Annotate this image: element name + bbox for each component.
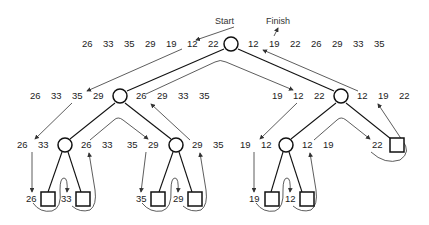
edge bbox=[125, 103, 171, 139]
number-l1-left-in: 35 bbox=[72, 90, 83, 101]
number-l1-left-in: 33 bbox=[51, 90, 62, 101]
node-root bbox=[224, 37, 238, 51]
number-l2d-in: 22 bbox=[372, 139, 383, 150]
node-l1-right bbox=[334, 89, 348, 103]
edge bbox=[127, 49, 224, 91]
number-leaves: 35 bbox=[136, 193, 147, 204]
number-l1-right-in: 12 bbox=[293, 90, 304, 101]
finish-label: Finish bbox=[266, 16, 290, 26]
number-l2b-out: 29 bbox=[192, 139, 203, 150]
leaf bbox=[300, 192, 314, 206]
number-l2a-out: 26 bbox=[81, 139, 92, 150]
number-root-in: 19 bbox=[166, 38, 177, 49]
leaf bbox=[265, 192, 279, 206]
number-l2b-out: 35 bbox=[213, 139, 224, 150]
number-root-out: 35 bbox=[374, 38, 385, 49]
number-root-in: 29 bbox=[145, 38, 156, 49]
edge bbox=[291, 103, 336, 139]
number-l1-left-in: 29 bbox=[93, 90, 104, 101]
edge bbox=[289, 152, 302, 192]
leaf bbox=[188, 192, 202, 206]
edge bbox=[271, 152, 283, 192]
number-l2c-out: 19 bbox=[323, 139, 334, 150]
number-root-out: 26 bbox=[311, 38, 322, 49]
number-leaves: 26 bbox=[26, 193, 37, 204]
node-l1-left bbox=[113, 89, 127, 103]
number-l2b-in: 29 bbox=[148, 139, 159, 150]
edge bbox=[68, 152, 81, 192]
number-root-in: 12 bbox=[187, 38, 198, 49]
number-l2c-out: 12 bbox=[302, 139, 313, 150]
number-l2c-in: 12 bbox=[261, 139, 272, 150]
number-leaves: 29 bbox=[173, 193, 184, 204]
number-l1-right-out: 22 bbox=[399, 90, 410, 101]
node-l2a bbox=[58, 138, 72, 152]
number-l2a-in: 33 bbox=[38, 139, 49, 150]
leaf bbox=[41, 192, 55, 206]
leaf bbox=[76, 192, 90, 206]
number-root-out: 29 bbox=[332, 38, 343, 49]
number-root-out: 22 bbox=[290, 38, 301, 49]
number-leaves: 12 bbox=[285, 193, 296, 204]
number-root-in: 35 bbox=[124, 38, 135, 49]
number-leaves: 19 bbox=[249, 193, 260, 204]
number-l1-left-out: 35 bbox=[199, 90, 210, 101]
number-l1-right-in: 19 bbox=[272, 90, 283, 101]
traversal-paths bbox=[32, 27, 407, 211]
number-root-in: 22 bbox=[208, 38, 219, 49]
tree-edges bbox=[48, 49, 391, 192]
start-label: Start bbox=[215, 16, 235, 26]
diagram: Start Finish 263335291912221219222629333… bbox=[0, 0, 429, 225]
number-root-out: 33 bbox=[353, 38, 364, 49]
number-root-out: 12 bbox=[248, 38, 259, 49]
number-l1-left-out: 33 bbox=[178, 90, 189, 101]
number-root-in: 26 bbox=[82, 38, 93, 49]
node-l2c bbox=[279, 138, 293, 152]
number-l2a-out: 33 bbox=[102, 139, 113, 150]
number-l1-right-out: 12 bbox=[357, 90, 368, 101]
number-l2c-in: 19 bbox=[240, 139, 251, 150]
number-l1-left-out: 26 bbox=[136, 90, 147, 101]
number-l2a-in: 26 bbox=[17, 139, 28, 150]
leaf bbox=[151, 192, 165, 206]
number-l2b-in: 35 bbox=[127, 139, 138, 150]
tree-nodes bbox=[41, 37, 404, 206]
number-l1-right-out: 19 bbox=[378, 90, 389, 101]
number-l1-left-out: 29 bbox=[157, 90, 168, 101]
recursion-tree: Start Finish 263335291912221219222629333… bbox=[0, 0, 429, 225]
number-root-in: 33 bbox=[103, 38, 114, 49]
node-l2b bbox=[169, 138, 183, 152]
edge bbox=[238, 49, 334, 91]
number-l1-left-in: 26 bbox=[30, 90, 41, 101]
leaf-22 bbox=[390, 138, 404, 152]
number-leaves: 33 bbox=[61, 193, 72, 204]
number-l1-right-in: 22 bbox=[314, 90, 325, 101]
edge bbox=[70, 103, 115, 139]
number-root-out: 19 bbox=[269, 38, 280, 49]
edge bbox=[179, 152, 192, 192]
edge bbox=[346, 103, 391, 139]
